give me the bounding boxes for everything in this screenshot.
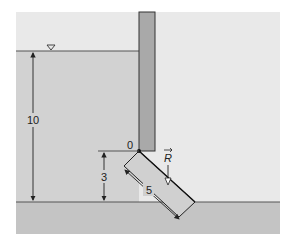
hinge-label: 0 xyxy=(127,139,133,151)
hinge-height-label: 3 xyxy=(101,171,107,183)
gate-length-label: 5 xyxy=(146,184,152,196)
gate-diagram: 10 3 5 0 R xyxy=(0,0,292,247)
force-label: R xyxy=(164,152,172,164)
depth-label: 10 xyxy=(27,114,39,126)
wall xyxy=(139,12,155,151)
ground xyxy=(16,202,280,234)
